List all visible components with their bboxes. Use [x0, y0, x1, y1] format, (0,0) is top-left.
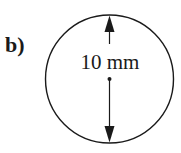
diameter-arrow — [105, 16, 115, 143]
center-dot — [108, 77, 112, 81]
part-label: b) — [5, 32, 25, 57]
circle-diameter-diagram: b) 10 mm — [0, 0, 181, 153]
arrow-head-up-icon — [105, 16, 115, 33]
dimension-label: 10 mm — [81, 50, 140, 74]
arrow-head-down-icon — [105, 126, 115, 143]
